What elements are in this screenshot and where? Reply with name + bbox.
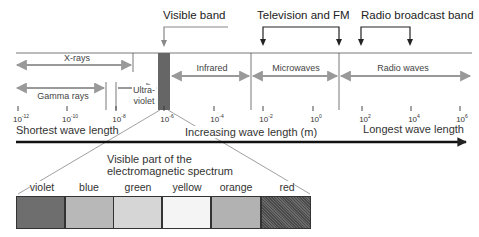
region-label-uv-line1: Ultra- — [133, 85, 155, 96]
axis-ticks — [18, 106, 460, 111]
tick-label: 10-10 — [62, 113, 78, 124]
tick-exponent: -12 — [22, 113, 29, 119]
tick-label: 10-2 — [259, 113, 272, 124]
radio-broadcast-arrowhead-left-icon — [358, 39, 364, 46]
tick-base: 10 — [62, 115, 71, 124]
color-label-yellow: yellow — [172, 181, 201, 193]
region-label-xrays: X-rays — [64, 53, 90, 63]
swatch-orange — [211, 196, 261, 229]
tick-exponent: 0 — [319, 113, 322, 119]
region-label-radio: Radio waves — [377, 63, 429, 73]
tick-label: 10-4 — [210, 113, 223, 124]
tv-fm-label: Television and FM — [257, 9, 350, 21]
region-label-uv: Ultra- violet — [132, 85, 156, 107]
tick-exponent: -6 — [169, 113, 173, 119]
visible-caption: Visible part of the electromagnetic spec… — [107, 153, 233, 177]
color-label-red: red — [279, 181, 294, 193]
visible-caption-line2: electromagnetic spectrum — [107, 165, 233, 177]
tick-exponent: 6 — [465, 113, 468, 119]
swatch-yellow — [162, 196, 211, 229]
tick-base: 10 — [310, 115, 319, 124]
region-label-infrared: Infrared — [196, 63, 227, 73]
swatch-green — [113, 196, 162, 229]
tick-exponent: -10 — [71, 113, 78, 119]
visible-caption-line1: Visible part of the — [107, 153, 233, 165]
tick-exponent: 4 — [417, 113, 420, 119]
color-label-green: green — [125, 181, 152, 193]
visible-band-label: Visible band — [163, 9, 225, 21]
tv-fm-arrowhead-left-icon — [260, 39, 266, 46]
visible-band-bar — [158, 53, 170, 110]
region-label-gamma: Gamma rays — [37, 91, 89, 101]
axis-right-label: Longest wave length — [363, 123, 464, 135]
tick-base: 10 — [210, 115, 219, 124]
swatch-blue — [65, 196, 114, 229]
color-label-orange: orange — [220, 181, 253, 193]
tick-label: 100 — [310, 113, 322, 124]
tv-fm-bracket — [263, 27, 339, 42]
tick-base: 10 — [259, 115, 268, 124]
tv-fm-arrowhead-right-icon — [336, 39, 342, 46]
tick-exponent: -4 — [219, 113, 223, 119]
swatch-violet — [16, 196, 65, 229]
tick-label: 10-6 — [160, 113, 173, 124]
tick-label: 10-8 — [112, 113, 125, 124]
radio-broadcast-arrowhead-right-icon — [407, 39, 413, 46]
color-label-violet: violet — [30, 181, 55, 193]
tick-exponent: 2 — [368, 113, 371, 119]
radio-broadcast-bracket — [361, 27, 410, 42]
tick-exponent: -8 — [121, 113, 125, 119]
axis-left-label: Shortest wave length — [16, 124, 119, 136]
tick-base: 10 — [13, 115, 22, 124]
region-label-microwaves: Microwaves — [272, 63, 320, 73]
radio-broadcast-label: Radio broadcast band — [361, 9, 474, 21]
color-label-blue: blue — [79, 181, 99, 193]
visible-band-arrowhead-icon — [161, 40, 167, 47]
visible-band-pointer — [164, 27, 228, 44]
region-label-uv-line2: violet — [133, 96, 155, 107]
tick-base: 10 — [160, 115, 169, 124]
tick-exponent: -2 — [268, 113, 272, 119]
tick-base: 10 — [112, 115, 121, 124]
tick-label: 10-12 — [13, 113, 29, 124]
axis-center-label: Increasing wave length (m) — [183, 126, 319, 138]
swatch-red — [261, 196, 311, 229]
